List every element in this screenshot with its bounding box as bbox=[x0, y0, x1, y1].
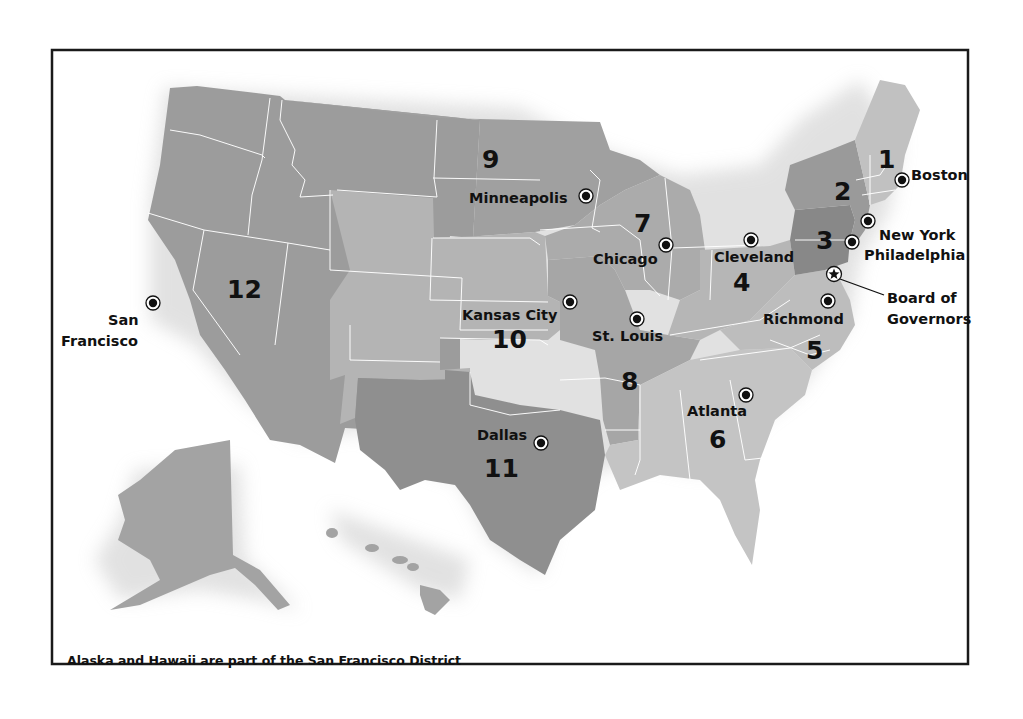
city-label-boston: Boston bbox=[911, 167, 968, 183]
district-number-5: 5 bbox=[806, 336, 823, 365]
district-number-2: 2 bbox=[834, 177, 851, 206]
district-number-8: 8 bbox=[621, 367, 638, 396]
city-label-san-francisco-line1: San bbox=[108, 312, 139, 328]
map-caption: Alaska and Hawaii are part of the San Fr… bbox=[67, 653, 461, 668]
federal-reserve-district-map: 1 2 3 4 5 6 7 8 9 10 11 12 Boston New Yo… bbox=[0, 0, 1023, 719]
marker-cleveland[interactable] bbox=[744, 233, 758, 247]
district-number-3: 3 bbox=[816, 226, 833, 255]
district-number-10: 10 bbox=[492, 325, 527, 354]
marker-atlanta[interactable] bbox=[739, 388, 753, 402]
marker-chicago[interactable] bbox=[659, 238, 673, 252]
marker-st-louis[interactable] bbox=[630, 312, 644, 326]
city-label-philadelphia: Philadelphia bbox=[864, 247, 965, 263]
marker-minneapolis[interactable] bbox=[579, 189, 593, 203]
district-number-7: 7 bbox=[634, 209, 651, 238]
marker-richmond[interactable] bbox=[821, 294, 835, 308]
city-label-cleveland: Cleveland bbox=[714, 249, 794, 265]
city-label-new-york: New York bbox=[879, 227, 956, 243]
district-number-11: 11 bbox=[484, 454, 519, 483]
board-of-governors-label-line1: Board of bbox=[887, 290, 957, 306]
district-number-6: 6 bbox=[709, 425, 726, 454]
city-label-atlanta: Atlanta bbox=[687, 403, 747, 419]
marker-new-york[interactable] bbox=[861, 214, 875, 228]
district-number-12: 12 bbox=[227, 275, 262, 304]
board-of-governors-label-line2: Governors bbox=[887, 311, 971, 327]
marker-kansas-city[interactable] bbox=[563, 295, 577, 309]
marker-boston[interactable] bbox=[895, 173, 909, 187]
marker-philadelphia[interactable] bbox=[845, 235, 859, 249]
city-label-kansas-city: Kansas City bbox=[462, 307, 558, 323]
city-label-dallas: Dallas bbox=[477, 427, 527, 443]
city-label-richmond: Richmond bbox=[763, 311, 844, 327]
city-label-san-francisco-line2: Francisco bbox=[61, 333, 138, 349]
city-label-st-louis: St. Louis bbox=[592, 328, 663, 344]
district-number-4: 4 bbox=[733, 268, 750, 297]
marker-dallas[interactable] bbox=[534, 436, 548, 450]
district-number-9: 9 bbox=[482, 145, 499, 174]
city-label-minneapolis: Minneapolis bbox=[469, 190, 568, 206]
district-number-1: 1 bbox=[878, 145, 895, 174]
city-label-chicago: Chicago bbox=[593, 251, 658, 267]
marker-san-francisco[interactable] bbox=[146, 296, 160, 310]
